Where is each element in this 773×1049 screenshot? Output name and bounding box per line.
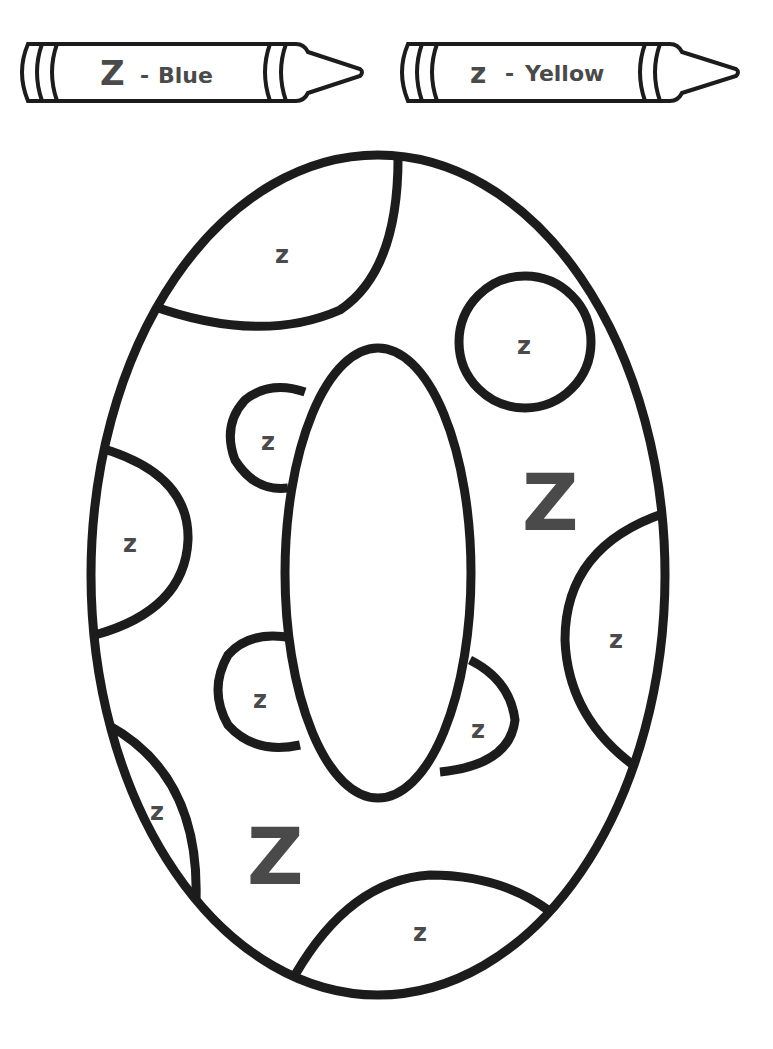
legend-letter-blue: Z — [100, 53, 125, 93]
region-label-upper: Z — [247, 812, 304, 902]
region-label-upper: Z — [522, 458, 579, 548]
region-label-lower: z — [253, 686, 267, 714]
legend-color-blue: Blue — [158, 63, 213, 88]
legend-dash-yellow: - — [505, 61, 514, 86]
legend-color-yellow: Yellow — [524, 61, 604, 86]
region-label-lower: z — [123, 530, 137, 558]
region-label-lower: z — [275, 241, 289, 269]
region-label-lower: z — [517, 332, 531, 360]
region-label-lower: z — [261, 428, 275, 456]
coloring-page: Z - Blue z - Yellow — [0, 0, 773, 1049]
region-label-lower: z — [471, 716, 485, 744]
letter-o-shape — [90, 150, 668, 995]
legend-dash-blue: - — [140, 63, 149, 88]
region-label-lower: z — [609, 626, 623, 654]
region-label-lower: z — [150, 798, 164, 826]
region-label-lower: z — [413, 919, 427, 947]
legend-letter-yellow: z — [470, 57, 486, 90]
